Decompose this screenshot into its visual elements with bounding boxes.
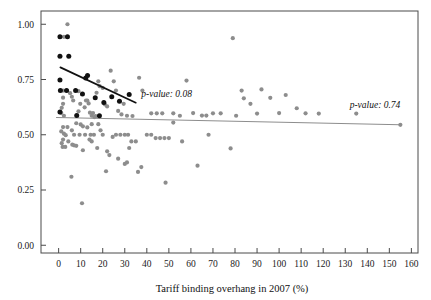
fit-line-grey — [56, 118, 400, 125]
data-point — [139, 165, 143, 169]
data-point — [163, 181, 167, 185]
data-point — [81, 148, 85, 152]
fit-line-grey — [56, 118, 400, 125]
y-tick-label: 0.50 — [17, 130, 34, 140]
data-point — [149, 133, 153, 137]
data-point — [97, 113, 102, 118]
data-point — [125, 114, 129, 118]
data-point — [191, 111, 195, 115]
data-point — [104, 169, 108, 173]
data-point — [195, 164, 199, 168]
data-point — [101, 100, 106, 105]
data-point — [81, 124, 85, 128]
data-point — [134, 139, 138, 143]
x-tick-label: 50 — [164, 259, 174, 269]
data-point — [85, 73, 90, 78]
data-point — [80, 91, 85, 96]
data-point — [136, 170, 140, 174]
data-point — [125, 160, 129, 164]
data-points-other-countries — [59, 22, 402, 205]
data-point — [145, 133, 149, 137]
data-point — [122, 102, 126, 106]
data-point — [65, 34, 70, 39]
y-axis-tick-labels: 0.000.250.500.751.00 — [17, 20, 34, 251]
data-point — [180, 139, 184, 143]
data-point — [178, 114, 182, 118]
data-point — [57, 110, 62, 115]
data-point — [57, 34, 62, 39]
data-point — [76, 109, 80, 113]
data-point — [93, 95, 98, 100]
data-point — [303, 111, 307, 115]
x-tick-label: 110 — [294, 259, 308, 269]
x-axis-ticks — [59, 248, 412, 253]
data-point — [119, 112, 123, 116]
x-tick-label: 70 — [208, 259, 218, 269]
data-point — [117, 99, 122, 104]
data-point — [259, 87, 263, 91]
data-point — [317, 111, 321, 115]
data-point — [231, 36, 235, 40]
x-tick-label: 0 — [56, 259, 61, 269]
data-point — [127, 146, 131, 150]
data-point — [112, 79, 116, 83]
data-point — [116, 157, 120, 161]
data-point — [85, 125, 89, 129]
p-value-grey-line: p-value: 0.74 — [349, 100, 401, 110]
x-tick-label: 40 — [142, 259, 152, 269]
data-point — [63, 145, 67, 149]
x-tick-label: 120 — [316, 259, 331, 269]
data-point — [206, 133, 210, 137]
data-point — [61, 125, 65, 129]
y-tick-label: 0.25 — [17, 185, 34, 195]
data-point — [162, 136, 166, 140]
data-point — [114, 133, 118, 137]
data-point — [116, 109, 120, 113]
data-point — [74, 113, 79, 118]
x-tick-label: 160 — [404, 259, 419, 269]
data-point — [70, 95, 74, 99]
chart-figure: 0.000.250.500.751.00 0102030405060708090… — [0, 0, 431, 300]
data-point — [60, 106, 64, 110]
data-point — [234, 114, 238, 118]
data-point — [64, 88, 69, 93]
data-point — [109, 69, 113, 73]
x-tick-label: 90 — [252, 259, 262, 269]
x-axis-tick-labels: 0102030405060708090100110120130140150160 — [56, 259, 418, 269]
data-point — [83, 105, 87, 109]
data-points-highlighted-countries — [57, 34, 131, 118]
data-point — [74, 121, 78, 125]
data-point — [96, 122, 100, 126]
data-point — [171, 111, 175, 115]
y-tick-label: 0.00 — [17, 241, 34, 251]
data-point — [65, 125, 69, 129]
data-point — [240, 88, 244, 92]
data-point — [60, 141, 64, 145]
data-point — [80, 201, 84, 205]
data-point — [284, 93, 288, 97]
data-point — [184, 79, 188, 83]
data-point — [149, 111, 153, 115]
data-point — [105, 149, 109, 153]
data-point — [92, 133, 96, 137]
data-point — [83, 133, 87, 137]
data-point — [229, 146, 233, 150]
data-point — [277, 111, 281, 115]
data-point — [200, 113, 204, 117]
x-tick-label: 150 — [382, 259, 397, 269]
data-point — [109, 94, 114, 99]
data-point — [219, 111, 223, 115]
y-tick-label: 1.00 — [17, 20, 34, 30]
data-point — [98, 128, 102, 132]
data-point — [155, 111, 159, 115]
data-point — [295, 106, 299, 110]
data-point — [70, 128, 74, 132]
data-point — [137, 76, 141, 80]
data-point — [87, 101, 91, 105]
data-point — [57, 77, 62, 82]
data-point — [57, 54, 62, 59]
x-tick-label: 20 — [98, 259, 108, 269]
x-axis-title: Tariff binding overhang in 2007 (%) — [156, 283, 309, 295]
data-point — [65, 22, 69, 26]
data-point — [66, 139, 70, 143]
